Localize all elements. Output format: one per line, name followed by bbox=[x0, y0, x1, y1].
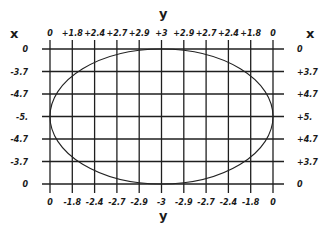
top-axis-name: y bbox=[159, 6, 168, 21]
right-tick-label: 0 bbox=[297, 45, 303, 54]
bottom-tick-label: -2.4 bbox=[86, 198, 104, 207]
right-axis-name: x bbox=[306, 26, 315, 41]
left-tick-label: -4.7 bbox=[11, 90, 29, 99]
left-tick-label: -3.7 bbox=[11, 68, 29, 77]
right-tick-label: 0 bbox=[297, 180, 303, 189]
bottom-tick-label: -2.9 bbox=[175, 198, 193, 207]
bottom-tick-label: -2.7 bbox=[197, 198, 215, 207]
bottom-tick-label: 0 bbox=[47, 198, 53, 207]
top-tick-label: +2.7 bbox=[196, 29, 217, 38]
bottom-tick-label: -1.8 bbox=[64, 198, 82, 207]
left-tick-label: -5. bbox=[16, 113, 28, 122]
top-tick-label: 0 bbox=[47, 29, 53, 38]
top-tick-label: +1.8 bbox=[62, 29, 83, 38]
left-tick-labels: 0-3.7-4.7-5.-4.7-3.70 bbox=[11, 45, 29, 189]
top-tick-label: 0 bbox=[270, 29, 276, 38]
bottom-axis-name: y bbox=[159, 208, 168, 223]
right-tick-label: +3.7 bbox=[297, 158, 318, 167]
left-axis-name: x bbox=[10, 26, 19, 41]
top-tick-label: +2.4 bbox=[84, 29, 105, 38]
top-tick-labels: 0+1.8+2.4+2.7+2.9+3+2.9+2.7+2.4+1.80 bbox=[47, 29, 276, 38]
top-tick-label: +2.4 bbox=[218, 29, 239, 38]
left-tick-label: -4.7 bbox=[11, 135, 29, 144]
bottom-tick-label: -2.4 bbox=[220, 198, 238, 207]
right-tick-label: +5. bbox=[297, 113, 312, 122]
right-tick-labels: 0+3.7+4.7+5.+4.7+3.70 bbox=[297, 45, 318, 189]
bottom-tick-label: -2.7 bbox=[108, 198, 126, 207]
horizontal-grid-lines bbox=[42, 49, 284, 184]
bottom-tick-labels: 0-1.8-2.4-2.7-2.9-3-2.9-2.7-2.4-1.80 bbox=[47, 198, 276, 207]
right-tick-label: +4.7 bbox=[297, 90, 318, 99]
bottom-tick-label: 0 bbox=[270, 198, 276, 207]
top-tick-label: +2.9 bbox=[173, 29, 194, 38]
left-tick-label: 0 bbox=[22, 45, 28, 54]
left-tick-label: 0 bbox=[22, 180, 28, 189]
top-tick-label: +1.8 bbox=[240, 29, 261, 38]
right-tick-label: +3.7 bbox=[297, 68, 318, 77]
top-tick-label: +2.7 bbox=[106, 29, 127, 38]
top-tick-label: +3 bbox=[155, 29, 168, 38]
top-tick-label: +2.9 bbox=[129, 29, 150, 38]
left-tick-label: -3.7 bbox=[11, 158, 29, 167]
bottom-tick-label: -1.8 bbox=[242, 198, 260, 207]
bottom-tick-label: -2.9 bbox=[130, 198, 148, 207]
ellipse-grid-diagram: 0+1.8+2.4+2.7+2.9+3+2.9+2.7+2.4+1.80 0-1… bbox=[0, 0, 331, 230]
right-tick-label: +4.7 bbox=[297, 135, 318, 144]
bottom-tick-label: -3 bbox=[157, 198, 166, 207]
